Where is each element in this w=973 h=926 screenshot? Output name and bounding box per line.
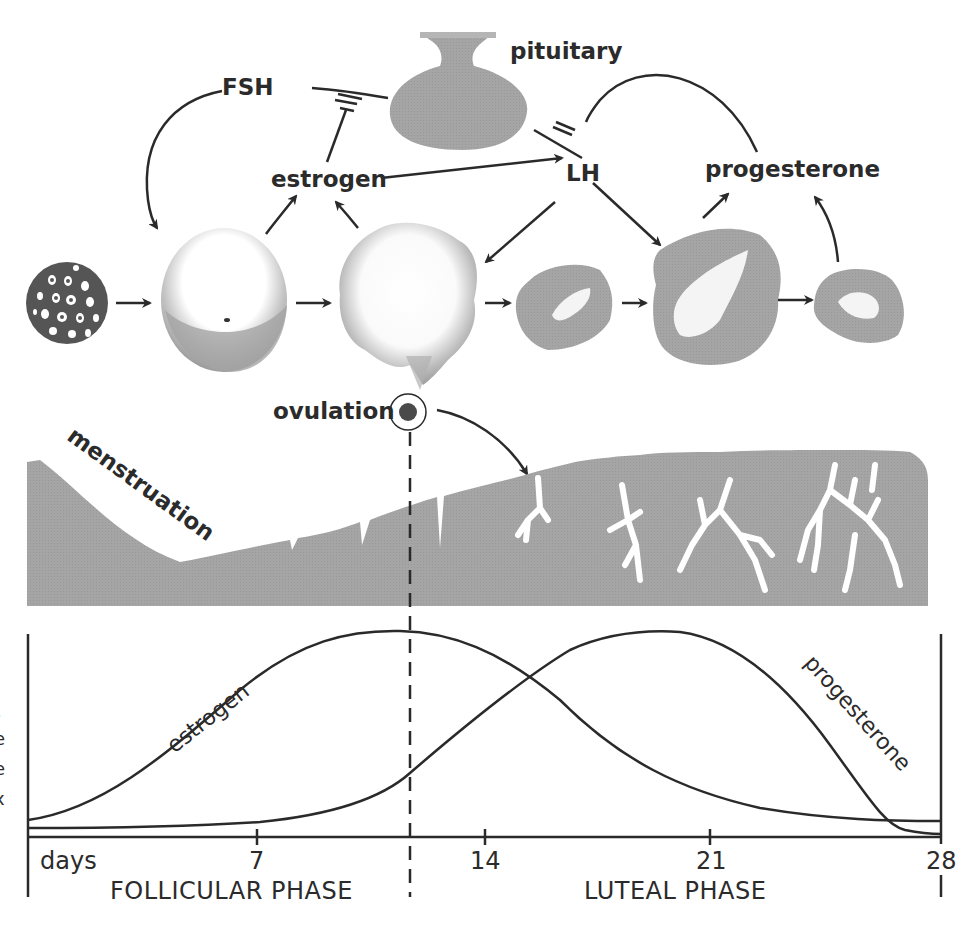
primordial-follicle <box>26 262 108 344</box>
progesterone-label: progesterone <box>705 156 880 182</box>
ovulation-egg-icon <box>390 394 426 430</box>
endometrium <box>27 450 928 606</box>
follicle-sequence <box>26 223 904 390</box>
tick-21: 21 <box>696 847 727 875</box>
margin-fragment: e <box>0 758 5 779</box>
follicular-phase-label: FOLLICULAR PHASE <box>110 877 353 905</box>
margin-fragment: e <box>0 728 5 749</box>
pituitary-gland <box>390 32 527 150</box>
tick-28: 28 <box>926 847 957 875</box>
corpus-luteum-mature <box>653 229 781 365</box>
menstrual-cycle-diagram <box>0 0 973 926</box>
estrogen-label: estrogen <box>271 166 387 192</box>
fsh-label: FSH <box>222 74 274 100</box>
corpus-luteum-regressing <box>814 269 904 343</box>
pituitary-label: pituitary <box>510 38 622 64</box>
margin-fragment: . <box>0 700 2 721</box>
luteal-phase-label: LUTEAL PHASE <box>584 877 766 905</box>
tick-7: 7 <box>249 847 264 875</box>
estrogen-curve <box>28 631 941 821</box>
margin-fragment: x <box>0 788 5 809</box>
developing-follicle <box>161 228 287 372</box>
lh-label: LH <box>566 160 600 186</box>
corpus-luteum-early <box>516 265 612 350</box>
ovulation-label: ovulation <box>273 398 395 424</box>
days-label: days <box>40 847 97 875</box>
tick-14: 14 <box>470 847 501 875</box>
mature-follicle <box>339 223 477 390</box>
